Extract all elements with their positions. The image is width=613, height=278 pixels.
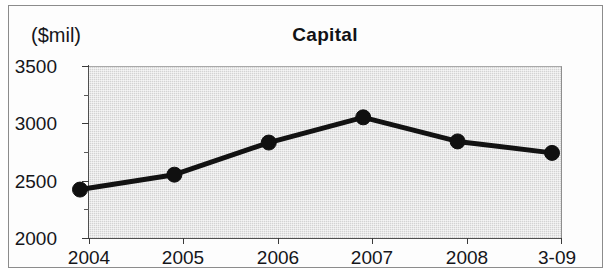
- chart-frame: ($mil) Capital 3500 3000 2500 2000 2004 …: [8, 5, 603, 268]
- y-minor-tick-3250: [84, 95, 89, 96]
- y-tick-label-2500: 2500: [0, 171, 57, 193]
- y-minor-tick-2750: [84, 152, 89, 153]
- x-tick-2006: [278, 238, 279, 244]
- y-minor-tick-2250: [84, 209, 89, 210]
- x-tick-3-09: [561, 238, 562, 244]
- x-tick-label-3-09: 3-09: [512, 247, 602, 269]
- x-tick-2005: [183, 238, 184, 244]
- x-tick-label-2005: 2005: [138, 247, 228, 269]
- y-axis-unit-label: ($mil): [31, 24, 81, 47]
- x-tick-2007: [372, 238, 373, 244]
- y-tick-2500: [82, 181, 89, 182]
- y-tick-2000: [82, 238, 89, 239]
- y-tick-label-3500: 3500: [0, 56, 57, 78]
- x-tick-label-2008: 2008: [422, 247, 512, 269]
- x-tick-label-2006: 2006: [233, 247, 323, 269]
- chart-figure: ($mil) Capital 3500 3000 2500 2000 2004 …: [0, 0, 613, 278]
- x-tick-2004: [89, 238, 90, 244]
- page-title: Capital: [89, 24, 561, 46]
- x-tick-label-2007: 2007: [327, 247, 417, 269]
- x-axis-line: [88, 238, 562, 239]
- plot-area: [89, 66, 562, 239]
- y-tick-label-3000: 3000: [0, 113, 57, 135]
- x-tick-2008: [467, 238, 468, 244]
- y-tick-3500: [82, 66, 89, 67]
- x-tick-label-2004: 2004: [44, 247, 134, 269]
- y-tick-3000: [82, 123, 89, 124]
